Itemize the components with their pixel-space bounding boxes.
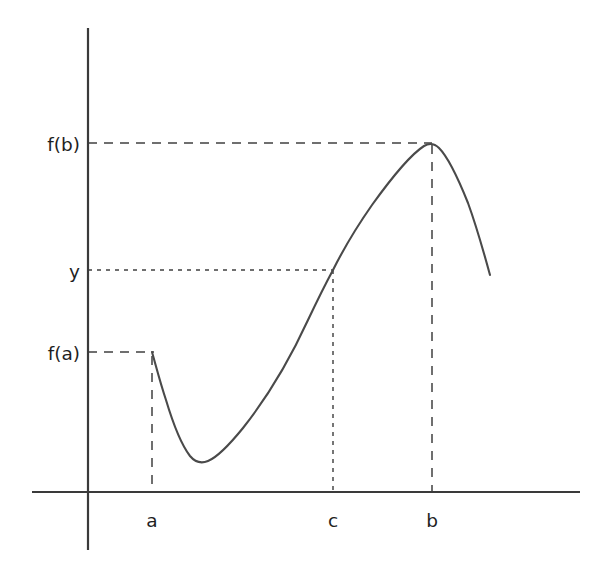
function-curve [152,144,490,462]
x-axis-label-a: a [146,510,157,531]
y-axis-label-fa: f(a) [48,343,80,364]
y-axis-label-y: y [69,261,80,282]
y-axis-label-fb: f(b) [47,134,80,155]
x-axis-label-b: b [426,510,438,531]
graph-svg: f(b) y f(a) a c b [0,0,603,577]
function-graph-figure: f(b) y f(a) a c b [0,0,603,577]
x-axis-label-c: c [328,510,338,531]
